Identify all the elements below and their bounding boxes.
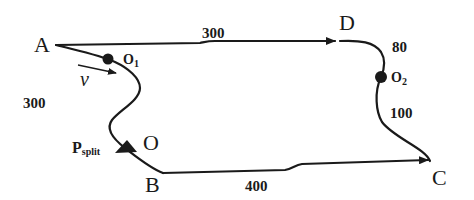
psplit-label: Psplit: [72, 139, 101, 157]
distance-label-b-c: 400: [245, 178, 268, 194]
node-label-b: B: [145, 172, 160, 197]
o1-point-dot: [103, 54, 114, 65]
route-diagram: A D C B O O1 O2 Psplit v 300 80 100 300 …: [0, 0, 474, 200]
node-label-o: O: [143, 130, 159, 155]
path-d-to-c: [340, 41, 430, 161]
o2-point-dot: [375, 71, 387, 83]
distance-label-a-d: 300: [202, 25, 225, 41]
distance-label-d-o2: 80: [392, 39, 407, 55]
path-a-to-d: [56, 41, 335, 45]
node-label-d: D: [339, 10, 355, 35]
node-label-c: C: [432, 165, 447, 190]
distance-label-o2-c: 100: [390, 105, 413, 121]
o2-label: O2: [391, 70, 407, 87]
path-b-to-c: [163, 160, 428, 173]
velocity-label: v: [80, 68, 89, 90]
node-label-a: A: [34, 32, 50, 57]
o1-label: O1: [123, 52, 139, 69]
distance-label-a-b: 300: [23, 95, 46, 111]
